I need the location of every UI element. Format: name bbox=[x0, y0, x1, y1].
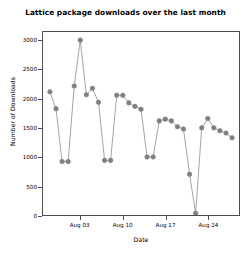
data-point bbox=[78, 38, 83, 43]
x-tick-mark bbox=[208, 216, 209, 220]
y-axis-tick-labels: 050010001500200025003000 bbox=[14, 31, 37, 216]
data-point bbox=[193, 211, 198, 215]
line-series-svg bbox=[43, 32, 239, 215]
y-tick-label: 2500 bbox=[23, 66, 37, 72]
data-point bbox=[218, 128, 223, 133]
x-tick-label: Aug 24 bbox=[199, 222, 219, 228]
chart-figure: Lattice package downloads over the last … bbox=[0, 0, 251, 261]
x-axis-title: Date bbox=[42, 236, 240, 243]
data-point bbox=[157, 119, 162, 124]
data-point bbox=[96, 100, 101, 105]
data-point bbox=[199, 126, 204, 131]
data-point bbox=[181, 127, 186, 132]
data-point bbox=[127, 101, 132, 106]
chart-title: Lattice package downloads over the last … bbox=[0, 8, 251, 17]
data-point bbox=[121, 93, 126, 98]
plot-area bbox=[42, 31, 240, 216]
data-point bbox=[139, 107, 144, 112]
data-point bbox=[145, 155, 150, 160]
x-tick-mark bbox=[166, 216, 167, 220]
data-point bbox=[48, 90, 53, 95]
data-point bbox=[66, 159, 71, 164]
data-point bbox=[163, 117, 168, 122]
x-tick-label: Aug 10 bbox=[113, 222, 133, 228]
data-point bbox=[212, 126, 217, 131]
data-point bbox=[169, 119, 174, 124]
y-tick-label: 2000 bbox=[23, 96, 37, 102]
data-point bbox=[133, 104, 138, 109]
x-tick-label: Aug 17 bbox=[156, 222, 176, 228]
data-point bbox=[230, 135, 235, 140]
data-point bbox=[72, 84, 77, 89]
x-tick-mark bbox=[80, 216, 81, 220]
data-point bbox=[175, 124, 180, 129]
y-tick-label: 500 bbox=[26, 184, 37, 190]
x-tick-mark bbox=[123, 216, 124, 220]
y-tick-label: 1000 bbox=[23, 154, 37, 160]
data-point bbox=[151, 155, 156, 160]
data-point bbox=[60, 159, 65, 164]
data-point bbox=[54, 106, 59, 111]
data-point bbox=[90, 86, 95, 91]
data-point bbox=[102, 158, 107, 163]
y-tick-label: 0 bbox=[33, 213, 37, 219]
x-tick-label: Aug 03 bbox=[70, 222, 90, 228]
data-point bbox=[84, 92, 89, 97]
y-tick-mark bbox=[38, 216, 42, 217]
data-point bbox=[206, 116, 211, 121]
data-point bbox=[224, 131, 229, 136]
y-tick-label: 3000 bbox=[23, 37, 37, 43]
y-tick-label: 1500 bbox=[23, 125, 37, 131]
data-point bbox=[187, 172, 192, 177]
data-point bbox=[114, 93, 119, 98]
series-line bbox=[50, 40, 232, 213]
data-point bbox=[108, 158, 113, 163]
